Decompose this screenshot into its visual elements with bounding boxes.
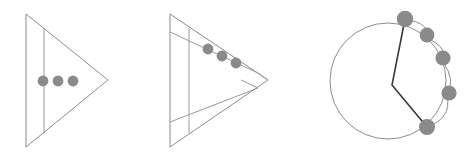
panel-3-dot-4: [441, 85, 456, 100]
panel-2-band-cap-upper: [258, 73, 268, 80]
panel-1-dot-1: [38, 76, 49, 87]
panel-2-band-cap-lower: [241, 80, 258, 88]
panel-1-dot-3: [68, 76, 79, 87]
panel-2-dot-2: [217, 51, 228, 62]
panel-3-dot-5: [419, 119, 435, 135]
panel-3-dot-1: [397, 11, 413, 27]
triangle-rotated-with-diagonal-band: [170, 14, 268, 147]
panel-1-dot-2: [53, 76, 64, 87]
figure-container: [0, 0, 466, 162]
panel-2-dot-1: [203, 44, 214, 55]
triangle-upright-with-band: [26, 14, 108, 147]
circle-with-arc-dots-and-polyline: [330, 11, 457, 139]
panel-3-dot-2: [420, 28, 435, 43]
panel-3-dot-3: [435, 50, 450, 65]
figure-canvas: [0, 0, 466, 162]
panel-2-triangle-outline: [170, 14, 268, 147]
panel-2-dot-3: [231, 58, 242, 69]
panel-2-band-upper-edge: [170, 32, 258, 73]
